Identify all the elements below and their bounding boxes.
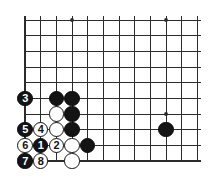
numbered-stone-2: 2	[49, 138, 64, 153]
numbered-stone-7: 7	[17, 153, 32, 168]
stone-white	[49, 122, 64, 137]
numbered-stone-3: 3	[17, 91, 32, 106]
stone-layer: 35461278	[0, 0, 216, 187]
stone-black	[49, 91, 64, 106]
stone-white	[64, 153, 79, 168]
numbered-stone-8: 8	[33, 153, 48, 168]
stone-black	[80, 138, 95, 153]
stone-number-label: 7	[22, 155, 28, 166]
stone-black	[64, 91, 79, 106]
stone-number-label: 1	[38, 139, 44, 150]
stone-black	[158, 122, 173, 137]
go-board-diagram: 35461278	[0, 0, 216, 187]
stone-number-label: 6	[22, 139, 28, 150]
stone-number-label: 4	[38, 124, 44, 135]
stone-black	[64, 122, 79, 137]
stone-number-label: 5	[22, 124, 28, 135]
stone-number-label: 3	[22, 92, 28, 103]
stone-white	[49, 106, 64, 121]
numbered-stone-5: 5	[17, 122, 32, 137]
numbered-stone-4: 4	[33, 122, 48, 137]
numbered-stone-6: 6	[17, 138, 32, 153]
numbered-stone-1: 1	[33, 138, 48, 153]
stone-number-label: 8	[38, 155, 44, 166]
stone-white	[64, 138, 79, 153]
stone-number-label: 2	[54, 139, 60, 150]
stone-black	[64, 106, 79, 121]
